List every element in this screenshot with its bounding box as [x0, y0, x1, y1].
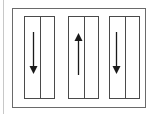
- lane-2-divider: [84, 17, 85, 98]
- lane-3-divider: [125, 17, 126, 98]
- arrow-down-icon: [112, 32, 121, 76]
- lane-1-divider: [40, 17, 41, 98]
- arrow-down-icon: [29, 32, 38, 76]
- left-edge-rule: [3, 0, 4, 114]
- lane-2: [68, 16, 99, 99]
- arrow-up-icon: [74, 32, 83, 76]
